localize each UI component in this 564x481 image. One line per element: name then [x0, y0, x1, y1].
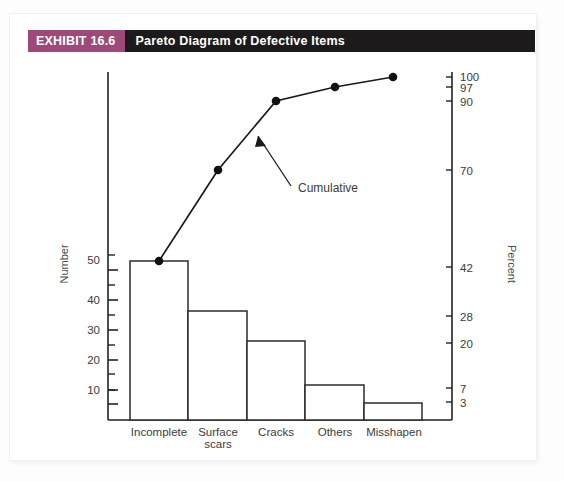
cat-label-scars: scars [204, 438, 232, 450]
left-tick-label-30: 30 [87, 324, 100, 336]
bar-surface-scars [188, 311, 247, 420]
cat-label-cracks: Cracks [258, 426, 294, 438]
right-axis-title: Percent [506, 245, 518, 283]
page-background: EXHIBIT 16.6 Pareto Diagram of Defective… [0, 0, 564, 481]
left-tick-label-50: 50 [87, 254, 100, 266]
cumulative-point-1 [155, 257, 164, 266]
left-axis-ticks [108, 255, 118, 404]
left-tick-label-10: 10 [87, 384, 100, 396]
category-labels: Incomplete Surface scars Cracks Others M… [131, 426, 422, 450]
bar-incomplete [130, 261, 188, 420]
bar-others [305, 385, 364, 420]
cumulative-point-5 [389, 73, 398, 82]
right-tick-label-70: 70 [460, 165, 473, 177]
exhibit-title-bar: Pareto Diagram of Defective Items [125, 30, 535, 52]
cat-label-misshapen: Misshapen [366, 426, 422, 438]
cumulative-annotation: Cumulative [255, 136, 358, 195]
right-tick-label-20: 20 [460, 338, 473, 350]
bars-group [130, 261, 422, 420]
cat-label-incomplete: Incomplete [131, 426, 187, 438]
left-axis-title: Number [58, 244, 70, 283]
annotation-label: Cumulative [298, 181, 358, 195]
chart-canvas: 50 40 30 20 10 Number [28, 58, 535, 456]
annotation-arrowhead [255, 136, 266, 147]
pareto-chart: 50 40 30 20 10 Number [28, 58, 535, 456]
right-axis-tick-labels: 100 97 90 70 42 28 20 7 3 [460, 71, 479, 409]
cat-label-others: Others [318, 426, 353, 438]
exhibit-title: Pareto Diagram of Defective Items [136, 34, 345, 48]
left-axis-tick-labels: 50 40 30 20 10 [87, 254, 100, 396]
left-tick-label-40: 40 [87, 294, 100, 306]
right-tick-label-28: 28 [460, 311, 473, 323]
right-tick-label-42: 42 [460, 262, 473, 274]
cumulative-point-3 [272, 97, 281, 106]
exhibit-number-tag: EXHIBIT 16.6 [28, 30, 125, 52]
cumulative-point-2 [214, 166, 223, 175]
right-axis-ticks [446, 77, 452, 402]
bar-cracks [247, 341, 305, 420]
cumulative-point-4 [331, 83, 340, 92]
left-tick-label-20: 20 [87, 354, 100, 366]
exhibit-header: EXHIBIT 16.6 Pareto Diagram of Defective… [28, 30, 535, 52]
cat-label-surface: Surface [198, 426, 238, 438]
right-tick-label-3: 3 [460, 397, 466, 409]
right-tick-label-7: 7 [460, 383, 466, 395]
right-tick-label-97: 97 [460, 82, 473, 94]
bar-misshapen [364, 403, 422, 420]
right-tick-label-90: 90 [460, 96, 473, 108]
cumulative-points [155, 73, 398, 266]
